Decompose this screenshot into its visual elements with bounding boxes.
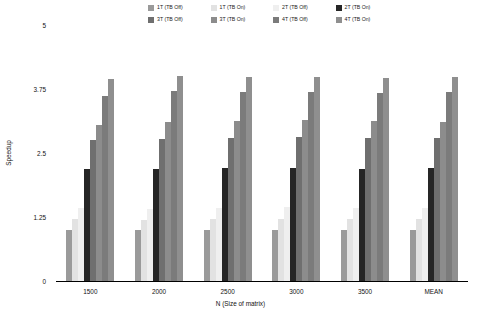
x-tick-label: 3000 [289, 288, 303, 295]
bar-group [262, 25, 331, 281]
legend-label: 1T (TB Off) [157, 2, 183, 13]
legend-item: 4T (TB On) [336, 14, 399, 25]
legend-swatch-icon [148, 17, 154, 23]
bar [108, 79, 114, 281]
legend-swatch-icon [211, 5, 217, 11]
x-axis-title: N (Size of matrix) [0, 300, 481, 307]
bar-group [399, 25, 468, 281]
chart-legend: 1T (TB Off)1T (TB On)2T (TB Off)2T (TB O… [148, 2, 398, 25]
x-tick-label: 1500 [83, 288, 97, 295]
bar-groups [56, 25, 468, 281]
y-axis-title: Speedup [5, 140, 12, 166]
legend-label: 3T (TB Off) [157, 14, 183, 25]
legend-swatch-icon [273, 17, 279, 23]
legend-swatch-icon [148, 5, 154, 11]
y-tick-label: 0 [0, 278, 46, 285]
bar-group [331, 25, 400, 281]
legend-item: 1T (TB On) [211, 2, 274, 13]
legend-label: 4T (TB Off) [282, 14, 308, 25]
legend-item: 2T (TB Off) [273, 2, 336, 13]
x-tick-label: MEAN [424, 288, 442, 295]
bar-group [56, 25, 125, 281]
legend-item: 1T (TB Off) [148, 2, 211, 13]
legend-label: 2T (TB On) [345, 2, 371, 13]
legend-label: 4T (TB On) [345, 14, 371, 25]
bar [314, 77, 320, 281]
legend-label: 2T (TB Off) [282, 2, 308, 13]
x-axis-line [56, 281, 468, 282]
legend-item: 3T (TB On) [211, 14, 274, 25]
y-tick-label: 5 [0, 22, 46, 29]
bar-group [125, 25, 194, 281]
bar [383, 78, 389, 281]
bar [177, 76, 183, 281]
legend-label: 3T (TB On) [220, 14, 246, 25]
x-tick-label: 3500 [358, 288, 372, 295]
legend-swatch-icon [336, 5, 342, 11]
plot-area [56, 25, 468, 281]
y-tick-label: 1.25 [0, 214, 46, 221]
bar-group [193, 25, 262, 281]
legend-swatch-icon [336, 17, 342, 23]
bar [246, 77, 252, 281]
legend-swatch-icon [273, 5, 279, 11]
legend-item: 4T (TB Off) [273, 14, 336, 25]
legend-item: 3T (TB Off) [148, 14, 211, 25]
legend-item: 2T (TB On) [336, 2, 399, 13]
x-tick-label: 2000 [152, 288, 166, 295]
x-tick-label: 2500 [221, 288, 235, 295]
legend-swatch-icon [211, 17, 217, 23]
bar [452, 77, 458, 281]
legend-label: 1T (TB On) [220, 2, 246, 13]
speedup-bar-chart: 1T (TB Off)1T (TB On)2T (TB Off)2T (TB O… [0, 0, 481, 320]
y-tick-label: 3.75 [0, 86, 46, 93]
